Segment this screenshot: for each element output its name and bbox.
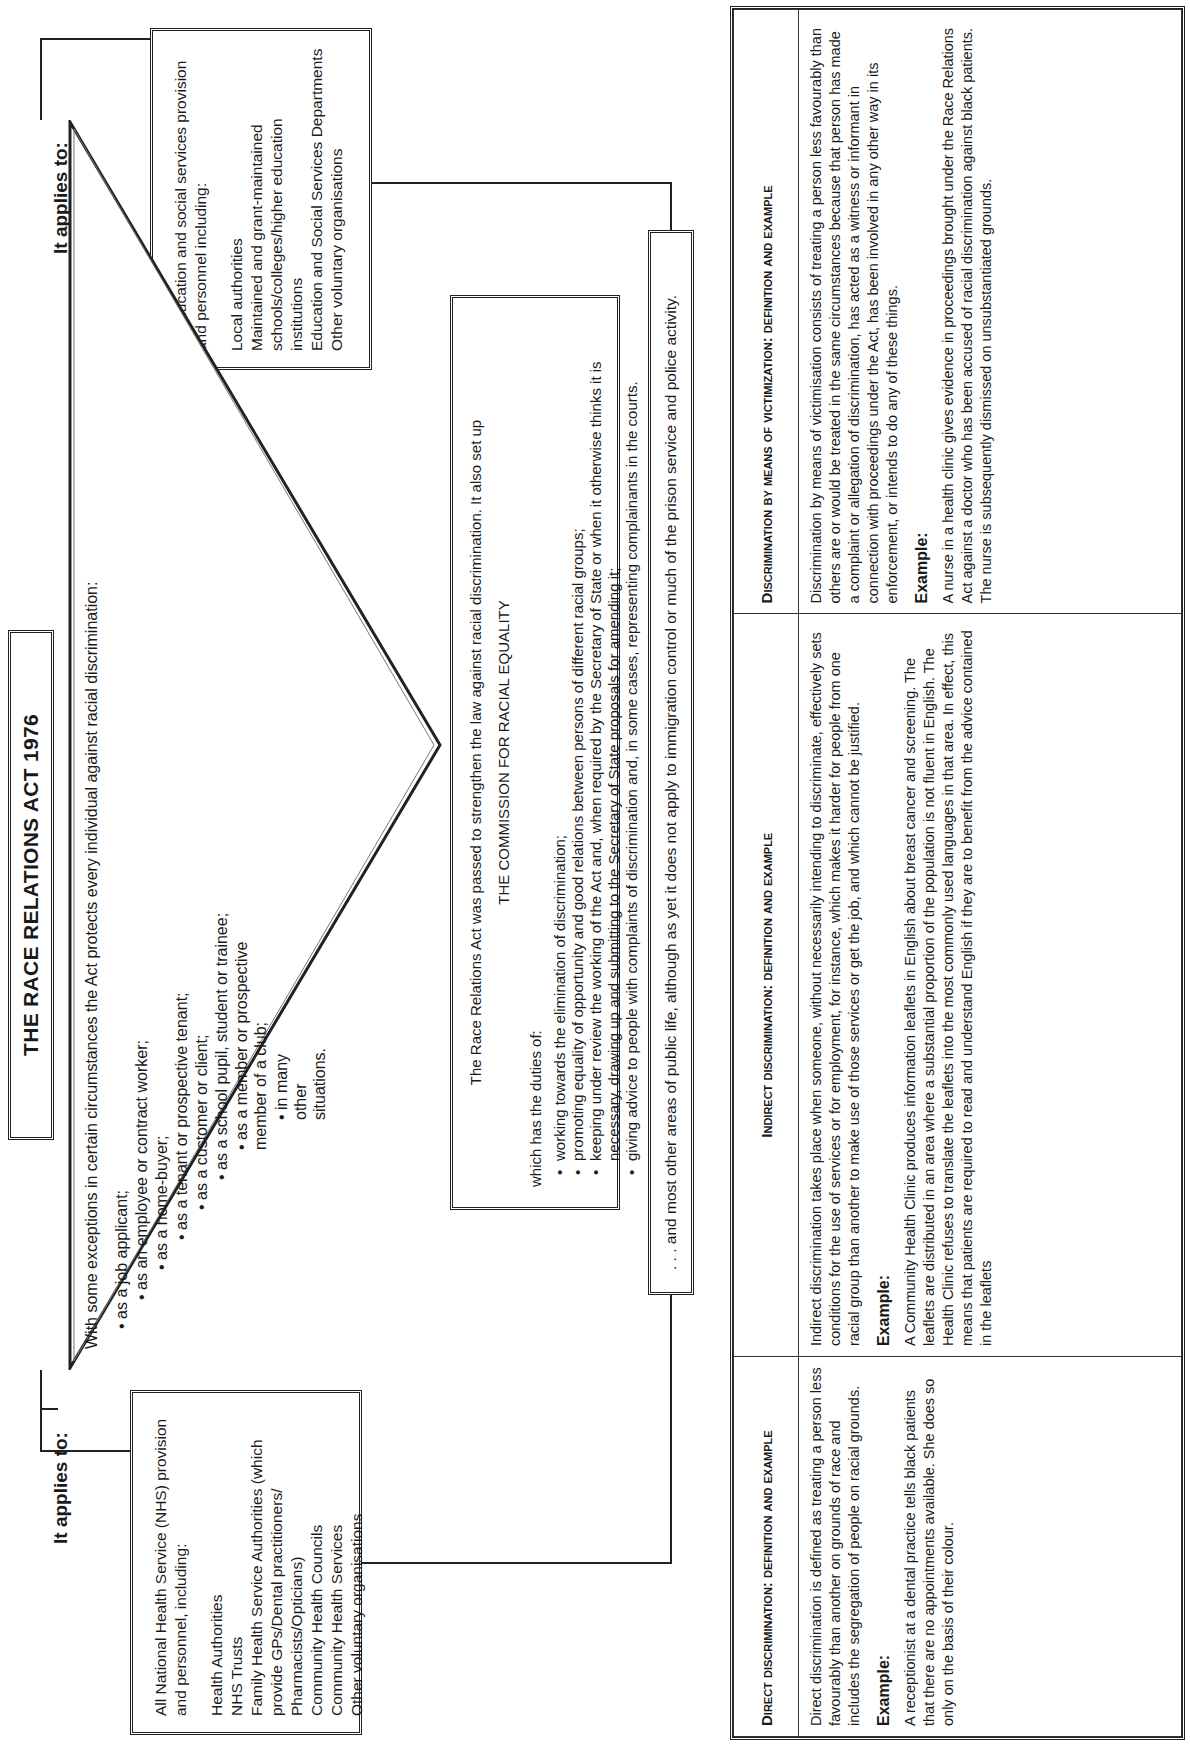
page-title: THE RACE RELATIONS ACT 1976 xyxy=(19,714,43,1056)
left-applies-heading: It applies to: xyxy=(50,1432,72,1544)
commission-duties-label: which has the duties of: xyxy=(527,318,545,1187)
commission-duties-list: working towards the elimination of discr… xyxy=(551,318,641,1187)
nhs-item: NHS Trusts xyxy=(227,1409,247,1716)
nhs-item: Community Health Councils xyxy=(307,1409,327,1716)
triangle-item: • as a school pupil, student or trainee; xyxy=(212,913,231,1180)
triangle-item: • as a member or prospective member of a… xyxy=(232,900,270,1150)
connector-line xyxy=(40,1370,42,1452)
connector-line xyxy=(670,1294,672,1564)
commission-duty: keeping under review the working of the … xyxy=(587,318,623,1173)
triangle-item: • as a job applicant; xyxy=(112,1190,131,1329)
column-header-direct: Direct discrimination: definition and ex… xyxy=(734,1357,799,1737)
connector-line xyxy=(40,38,150,40)
direct-cell: Direct discrimination is defined as trea… xyxy=(799,1357,1182,1737)
triangle-item: • as a customer or client; xyxy=(192,1035,211,1210)
nhs-intro: All National Health Service (NHS) provis… xyxy=(151,1409,191,1716)
victimization-example-label: Example: xyxy=(912,20,931,603)
connector-line xyxy=(40,38,42,120)
commission-name: THE COMMISSION FOR RACIAL EQUALITY xyxy=(495,318,513,1187)
table-row: Direct discrimination is defined as trea… xyxy=(799,10,1182,1737)
document-page: THE RACE RELATIONS ACT 1976 It applies t… xyxy=(0,0,1190,1744)
direct-definition: Direct discrimination is defined as trea… xyxy=(807,1367,864,1726)
commission-duty: promoting equality of opportunity and go… xyxy=(569,318,587,1173)
victimization-definition: Discrimination by means of victimisation… xyxy=(807,20,902,603)
triangle-intro: With some exceptions in certain circumst… xyxy=(82,149,101,1349)
nhs-item: Community Health Services xyxy=(327,1409,347,1716)
table-header-row: Direct discrimination: definition and ex… xyxy=(734,10,799,1737)
indirect-example-label: Example: xyxy=(874,624,893,1346)
triangle-item: • as an employee or contract worker; xyxy=(132,1040,151,1300)
indirect-cell: Indirect discrimination takes place when… xyxy=(799,614,1182,1357)
victimization-cell: Discrimination by means of victimisation… xyxy=(799,10,1182,614)
triangle-item: • in many other situations. xyxy=(272,1020,329,1120)
title-box: THE RACE RELATIONS ACT 1976 xyxy=(8,630,54,1140)
direct-example: A receptionist at a dental practice tell… xyxy=(901,1367,958,1726)
nhs-item: Health Authorities xyxy=(207,1409,227,1716)
connector-line xyxy=(40,1408,58,1410)
connector-line xyxy=(670,182,672,230)
commission-intro: The Race Relations Act was passed to str… xyxy=(467,318,485,1187)
commission-duty: giving advice to people with complaints … xyxy=(623,318,641,1173)
nhs-applies-box: All National Health Service (NHS) provis… xyxy=(130,1390,362,1735)
nhs-item: Family Health Service Authorities (which… xyxy=(247,1409,307,1716)
protection-triangle xyxy=(68,120,443,1370)
nhs-item: Other voluntary organisations xyxy=(347,1409,367,1716)
connector-line xyxy=(360,1562,670,1564)
direct-example-label: Example: xyxy=(874,1367,893,1726)
column-header-indirect: Indirect discrimination: definition and … xyxy=(734,614,799,1357)
triangle-item: • as a home-buyer; xyxy=(152,1135,171,1270)
victimization-example: A nurse in a health clinic gives evidenc… xyxy=(939,20,996,603)
discrimination-table: Direct discrimination: definition and ex… xyxy=(730,6,1185,1740)
indirect-definition: Indirect discrimination takes place when… xyxy=(807,624,864,1346)
commission-duty: working towards the elimination of discr… xyxy=(551,318,569,1173)
other-areas-text: . . . and most other areas of public lif… xyxy=(662,295,680,1270)
other-areas-box: . . . and most other areas of public lif… xyxy=(648,230,694,1295)
commission-box: The Race Relations Act was passed to str… xyxy=(450,295,620,1210)
indirect-example: A Community Health Clinic produces infor… xyxy=(901,624,996,1346)
column-header-victimization: Discrimination by means of victimization… xyxy=(734,10,799,614)
triangle-item: • as a tenant or prospective tenant; xyxy=(172,992,191,1240)
